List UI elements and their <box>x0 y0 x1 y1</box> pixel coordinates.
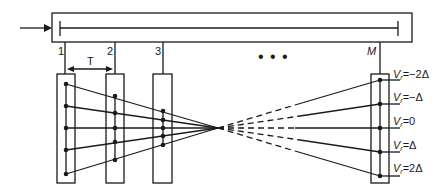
svg-text:Vr=−2Δ: Vr=−2Δ <box>393 68 430 81</box>
t-arrow-right-icon <box>106 66 113 72</box>
beam-5 <box>66 128 218 174</box>
spacing-t-label: T <box>87 55 94 67</box>
beam-2 <box>66 106 218 128</box>
tap-label-2: 2 <box>107 45 113 57</box>
beam-4-end <box>300 140 380 152</box>
tap-label-3: 3 <box>155 45 161 57</box>
ellipsis: • • • <box>258 48 289 65</box>
beam-2-end <box>300 104 380 116</box>
input-arrowhead-icon <box>44 24 52 32</box>
tap-label-1: 1 <box>58 45 64 57</box>
beam-4 <box>66 128 218 150</box>
beam-4-dashed <box>218 128 300 140</box>
velocity-labels: Vr=−2Δ Vr=−Δ Vr=0 Vr=Δ Vr=2Δ <box>393 68 430 175</box>
svg-text:Vr=Δ: Vr=Δ <box>393 139 417 152</box>
svg-text:Vr=2Δ: Vr=2Δ <box>393 162 423 175</box>
beam-5-dashed <box>218 128 295 151</box>
diagram-canvas: • • • 1 2 3 M T Vr=−2Δ Vr=−Δ Vr=0 Vr=Δ V… <box>0 0 448 194</box>
svg-text:Vr=0: Vr=0 <box>393 115 415 128</box>
svg-text:Vr=−Δ: Vr=−Δ <box>393 91 424 104</box>
beam-2-dashed <box>218 116 300 128</box>
beam-1 <box>66 84 218 128</box>
beam-1-dashed <box>218 105 295 128</box>
tap-label-m: M <box>367 45 377 57</box>
t-arrow-left-icon <box>67 66 74 72</box>
beam-5-end <box>295 151 380 176</box>
beam-1-end <box>295 80 380 105</box>
